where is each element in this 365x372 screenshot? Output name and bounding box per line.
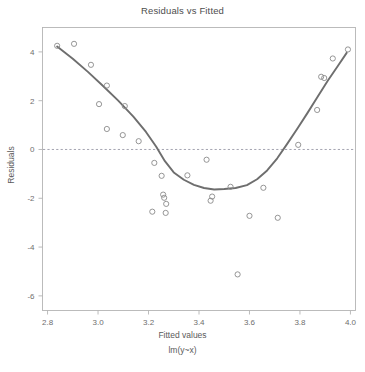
scatter-point xyxy=(104,126,109,131)
scatter-points xyxy=(55,41,351,277)
scatter-point xyxy=(150,209,155,214)
scatter-point xyxy=(164,201,169,206)
scatter-point xyxy=(120,132,125,137)
scatter-point xyxy=(275,215,280,220)
y-tick-label: -6 xyxy=(27,292,35,301)
y-axis-label: Residuals xyxy=(6,115,16,215)
x-tick-label: 4.0 xyxy=(345,318,357,327)
x-axis: 2.83.03.23.43.63.84.0 xyxy=(42,311,357,327)
loess-smoother-line xyxy=(57,47,347,190)
scatter-point xyxy=(315,107,320,112)
scatter-point xyxy=(88,62,93,67)
scatter-point xyxy=(235,272,240,277)
scatter-point xyxy=(204,157,209,162)
y-tick-label: 0 xyxy=(30,145,35,154)
x-axis-label: Fitted values xyxy=(0,330,365,340)
scatter-point xyxy=(159,173,164,178)
scatter-point xyxy=(185,173,190,178)
scatter-point xyxy=(71,41,76,46)
scatter-point xyxy=(261,185,266,190)
scatter-point xyxy=(104,83,109,88)
scatter-point xyxy=(136,139,141,144)
x-tick-label: 3.8 xyxy=(294,318,306,327)
y-axis: 420-2-4-6 xyxy=(27,48,42,301)
y-tick-label: -2 xyxy=(27,194,35,203)
y-tick-label: 4 xyxy=(30,48,35,57)
y-tick-label: -4 xyxy=(27,243,35,252)
scatter-point xyxy=(161,192,166,197)
scatter-point xyxy=(345,47,350,52)
scatter-point xyxy=(296,142,301,147)
scatter-point xyxy=(322,75,327,80)
x-tick-label: 3.4 xyxy=(193,318,205,327)
residual-plot-figure: Residuals vs Fitted 2.83.03.23.43.63.84.… xyxy=(0,0,365,372)
scatter-point xyxy=(247,213,252,218)
plot-frame xyxy=(43,28,356,311)
x-tick-label: 2.8 xyxy=(42,318,54,327)
scatter-point xyxy=(319,74,324,79)
x-tick-label: 3.2 xyxy=(143,318,155,327)
x-tick-label: 3.6 xyxy=(244,318,256,327)
y-tick-label: 2 xyxy=(30,97,35,106)
scatter-point xyxy=(330,56,335,61)
scatter-point xyxy=(152,160,157,165)
x-tick-label: 3.0 xyxy=(92,318,104,327)
chart-canvas: 2.83.03.23.43.63.84.0 420-2-4-6 xyxy=(0,0,365,372)
scatter-point xyxy=(162,195,167,200)
scatter-point xyxy=(163,210,168,215)
scatter-point xyxy=(96,102,101,107)
x-axis-sublabel: lm(y~x) xyxy=(0,345,365,355)
